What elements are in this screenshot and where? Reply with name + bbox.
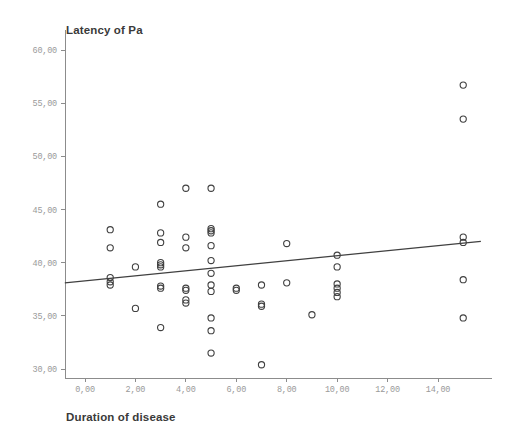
data-point-marker	[132, 264, 138, 270]
x-tick-label: 12,00	[375, 385, 400, 395]
data-point-marker	[208, 257, 214, 263]
x-tick-label: 0,00	[75, 385, 95, 395]
data-point-marker	[309, 312, 315, 318]
x-axis: 0,002,004,006,008,0010,0012,0014,00	[65, 378, 492, 395]
data-point-marker	[208, 270, 214, 276]
data-points-group	[107, 82, 466, 368]
data-point-marker	[208, 315, 214, 321]
data-point-marker	[208, 282, 214, 288]
data-point-marker	[258, 362, 264, 368]
y-tick-label: 30,00	[32, 365, 57, 375]
regression-line	[65, 241, 481, 282]
data-point-marker	[158, 201, 164, 207]
data-point-marker	[183, 185, 189, 191]
x-tick-label: 10,00	[325, 385, 350, 395]
data-point-marker	[208, 350, 214, 356]
data-point-marker	[460, 277, 466, 283]
data-point-marker	[284, 280, 290, 286]
x-tick-label: 14,00	[426, 385, 451, 395]
data-point-marker	[208, 243, 214, 249]
data-point-marker	[208, 328, 214, 334]
data-point-marker	[183, 234, 189, 240]
data-point-marker	[284, 240, 290, 246]
x-tick-label: 4,00	[176, 385, 196, 395]
data-point-marker	[208, 288, 214, 294]
data-point-marker	[334, 294, 340, 300]
data-point-marker	[132, 305, 138, 311]
x-tick-label: 6,00	[226, 385, 246, 395]
data-point-marker	[208, 185, 214, 191]
data-point-marker	[158, 230, 164, 236]
y-tick-label: 55,00	[32, 99, 57, 109]
x-tick-label: 2,00	[126, 385, 146, 395]
plot-canvas: 30,0035,0040,0045,0050,0055,0060,00 0,00…	[0, 0, 508, 441]
y-tick-label: 35,00	[32, 312, 57, 322]
data-point-marker	[183, 245, 189, 251]
data-point-marker	[460, 315, 466, 321]
data-point-marker	[107, 245, 113, 251]
data-point-marker	[158, 239, 164, 245]
y-tick-label: 45,00	[32, 206, 57, 216]
scatter-plot-figure: Latency of Pa Duration of disease 30,003…	[0, 0, 508, 441]
regression-fit-line	[65, 241, 481, 282]
y-tick-label: 60,00	[32, 46, 57, 56]
data-point-marker	[460, 116, 466, 122]
data-point-marker	[460, 82, 466, 88]
y-axis: 30,0035,0040,0045,0050,0055,0060,00	[32, 30, 65, 378]
data-point-marker	[158, 324, 164, 330]
y-tick-label: 50,00	[32, 152, 57, 162]
data-point-marker	[258, 282, 264, 288]
y-tick-label: 40,00	[32, 259, 57, 269]
x-tick-label: 8,00	[277, 385, 297, 395]
data-point-marker	[107, 227, 113, 233]
data-point-marker	[334, 264, 340, 270]
